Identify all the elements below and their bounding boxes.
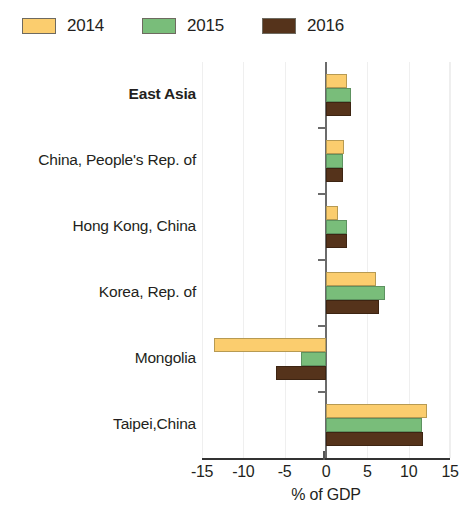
x-axis-zero-tick [323,451,325,460]
bar-2015-korea-rep-of [326,286,385,300]
x-tick-label: -5 [265,463,305,481]
legend-swatch-2016 [262,18,296,34]
x-tick-label: 5 [347,463,387,481]
bar-2014-korea-rep-of [326,272,376,286]
bar-2015-hong-kong-china [326,220,347,234]
bar-2016-east-asia [326,102,351,116]
plot-area [202,62,450,458]
legend-item-2015: 2015 [142,16,224,36]
category-label: Taipei,China [0,415,196,433]
chart-legend: 2014 2015 2016 [0,0,458,52]
x-tick-label: 15 [430,463,463,481]
bar-chart: East AsiaChina, People's Rep. ofHong Kon… [0,52,458,509]
gridline [285,62,286,458]
bar-2016-mongolia [276,366,326,380]
bar-2016-taipei-china [326,432,423,446]
bar-2015-east-asia [326,88,351,102]
x-tick-label: -15 [182,463,222,481]
gridline [243,62,244,458]
bar-2014-china-people-s-rep-of [326,140,344,154]
bar-2014-east-asia [326,74,347,88]
bar-2015-taipei-china [326,418,422,432]
gridline [409,62,410,458]
category-label: East Asia [0,85,196,103]
legend-label-2016: 2016 [307,16,344,36]
legend-swatch-2014 [22,18,56,34]
bar-2016-hong-kong-china [326,234,347,248]
bar-2014-mongolia [214,338,326,352]
x-axis-title: % of GDP [202,486,450,504]
bar-2014-taipei-china [326,404,427,418]
category-label: Hong Kong, China [0,217,196,235]
bar-2016-china-people-s-rep-of [326,168,343,182]
bar-2016-korea-rep-of [326,300,379,314]
zero-axis-tick [318,391,325,393]
legend-label-2014: 2014 [67,16,104,36]
legend-label-2015: 2015 [187,16,224,36]
gridline [367,62,368,458]
x-tick-label: -10 [223,463,263,481]
bar-2015-china-people-s-rep-of [326,154,343,168]
category-label: Mongolia [0,349,196,367]
gridline [450,62,451,458]
legend-item-2014: 2014 [22,16,104,36]
legend-item-2016: 2016 [262,16,344,36]
x-tick-label: 10 [389,463,429,481]
bar-2015-mongolia [301,352,326,366]
gridline [202,62,203,458]
legend-swatch-2015 [142,18,176,34]
bar-2014-hong-kong-china [326,206,338,220]
category-axis-labels: East AsiaChina, People's Rep. ofHong Kon… [0,62,196,458]
zero-axis-tick [318,193,325,195]
zero-axis-tick [318,325,325,327]
category-label: Korea, Rep. of [0,283,196,301]
category-label: China, People's Rep. of [0,151,196,169]
zero-axis-line [325,62,327,458]
zero-axis-tick [318,259,325,261]
x-axis-line [202,458,450,460]
zero-axis-tick [318,127,325,129]
x-tick-label: 0 [306,463,346,481]
